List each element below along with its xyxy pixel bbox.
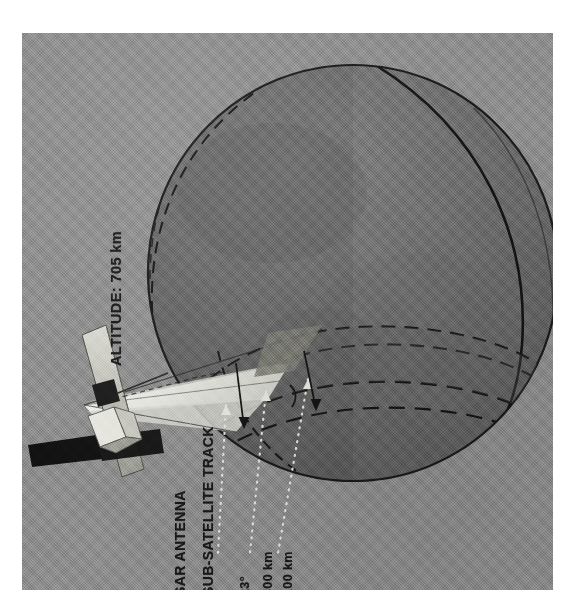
diagram-scene <box>22 33 553 590</box>
label-swath-far: 300 km <box>261 551 275 590</box>
figure-panel: ALTITUDE: 705 km SAR ANTENNA SUB-SATELLI… <box>22 33 553 590</box>
label-sub-satellite-track: SUB-SATELLITE TRACK <box>200 426 216 590</box>
page-background: ALTITUDE: 705 km SAR ANTENNA SUB-SATELLI… <box>0 0 562 606</box>
label-sar-antenna: SAR ANTENNA <box>172 490 188 590</box>
label-altitude: ALTITUDE: 705 km <box>108 231 124 366</box>
solar-panel <box>28 435 102 467</box>
label-swath-near: 100 km <box>281 551 295 590</box>
label-incidence-angle: 23° <box>238 576 252 590</box>
